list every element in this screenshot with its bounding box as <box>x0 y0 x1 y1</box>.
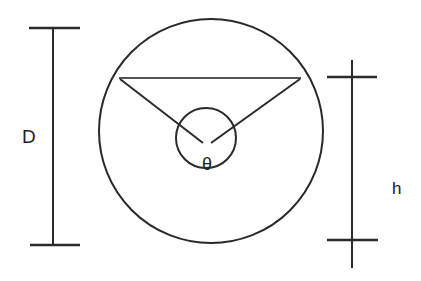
diameter-label: D <box>22 126 36 147</box>
diameter-dimension <box>29 28 80 245</box>
right-radius-line <box>211 79 300 143</box>
angle-label: θ <box>202 154 212 174</box>
left-radius-line <box>120 79 203 143</box>
height-label: h <box>392 179 401 198</box>
tank-cross-section-diagram: D θ h <box>0 0 421 281</box>
outer-circle <box>99 19 323 243</box>
height-dimension <box>327 60 378 268</box>
